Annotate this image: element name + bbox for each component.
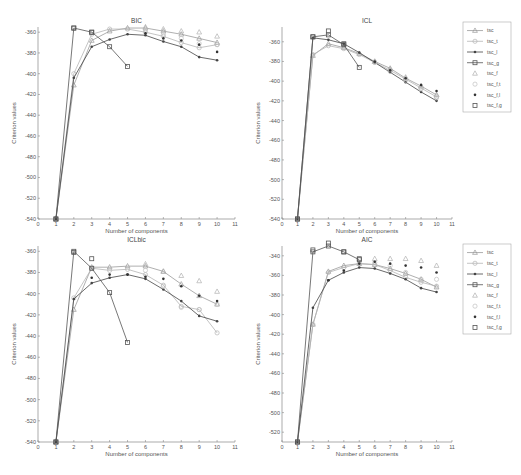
dot-marker (162, 278, 165, 281)
y-tick-label: -480 (269, 390, 280, 396)
y-tick-label: -520 (269, 196, 280, 202)
series-tsc-t (295, 262, 438, 445)
dot-marker (108, 273, 111, 276)
x-tick-label: 4 (342, 221, 345, 227)
y-tick-label: -440 (25, 112, 36, 118)
x-tick-label: 2 (311, 221, 314, 227)
x-tick-label: 6 (144, 221, 147, 227)
dot-marker (216, 320, 219, 323)
figure-canvas: 01234567891011-540-520-500-480-460-440-4… (0, 0, 521, 475)
dot-marker (358, 266, 361, 269)
dot-marker (90, 282, 93, 285)
y-tick-label: -420 (25, 91, 36, 97)
y-tick-label: -360 (269, 39, 280, 45)
dot-marker (144, 32, 147, 35)
legend-entry-label: tsc_f,g (487, 102, 502, 108)
x-tick-label: 3 (90, 221, 93, 227)
x-tick-label: 6 (144, 444, 147, 450)
y-tick-label: -440 (269, 351, 280, 357)
y-axis-label: Criterion values (11, 323, 17, 365)
legend-entry-label: tsc_l (487, 271, 497, 277)
x-axis-label: Number of components (105, 228, 167, 234)
legend-entry-label: tsc (487, 27, 494, 33)
x-tick-label: 0 (36, 444, 39, 450)
y-tick-label: -420 (269, 331, 280, 337)
x-tick-label: 3 (327, 444, 330, 450)
y-tick-label: -380 (25, 50, 36, 56)
x-tick-label: 8 (404, 444, 407, 450)
legend-entry-label: tsc_t (487, 260, 498, 266)
y-tick-label: -500 (25, 174, 36, 180)
x-tick-label: 9 (420, 444, 423, 450)
dot-marker (144, 275, 147, 278)
dot-marker (73, 298, 76, 301)
y-axis-label: Criterion values (11, 102, 17, 144)
dot-marker (198, 294, 201, 297)
axes-frame (282, 27, 452, 219)
chart-panel-bic: 01234567891011-540-520-500-480-460-440-4… (11, 17, 238, 234)
legend-entry-label: tsc_f,t (487, 303, 501, 309)
x-tick-label: 10 (433, 444, 439, 450)
x-tick-label: 6 (373, 444, 376, 450)
chart-panel-icl: 01234567891011-540-520-500-480-460-440-4… (255, 17, 455, 234)
x-tick-label: 2 (311, 444, 314, 450)
dot-marker (358, 51, 361, 54)
series-tsc-l (296, 266, 438, 443)
dot-marker (474, 51, 477, 54)
series-tsc (295, 261, 439, 444)
axes-frame (282, 246, 452, 442)
y-tick-label: -520 (25, 418, 36, 424)
legend-entry-label: tsc_g (487, 60, 499, 66)
dot-marker (126, 273, 129, 276)
chart-title: ICL (362, 17, 373, 24)
x-tick-label: 11 (232, 221, 238, 227)
triangle-marker (197, 30, 202, 34)
legend: tsctsc_ttsc_ltsc_gtsc_ftsc_f,ttsc_f,ltsc… (463, 244, 511, 334)
x-tick-label: 2 (72, 221, 75, 227)
dot-marker (327, 39, 330, 42)
dot-marker (90, 276, 93, 279)
y-tick-label: -480 (25, 375, 36, 381)
dot-marker (343, 269, 346, 272)
x-tick-label: 11 (449, 444, 455, 450)
triangle-marker (419, 258, 424, 262)
y-tick-label: -420 (25, 312, 36, 318)
dot-marker (327, 279, 330, 282)
x-tick-label: 8 (180, 444, 183, 450)
dot-marker (126, 33, 129, 36)
legend-entry-label: tsc_f (487, 70, 498, 76)
x-tick-label: 10 (433, 221, 439, 227)
x-tick-label: 0 (280, 444, 283, 450)
dot-marker (180, 285, 183, 288)
dot-marker (373, 267, 376, 270)
legend-entry-label: tsc_t (487, 38, 498, 44)
chart-panel-aic: 01234567891011-520-500-480-460-440-420-4… (255, 236, 455, 457)
triangle-marker (372, 256, 377, 260)
x-tick-label: 8 (180, 221, 183, 227)
chart-title: BIC (131, 17, 142, 24)
dot-marker (216, 300, 219, 303)
dot-marker (198, 43, 201, 46)
x-tick-label: 4 (108, 221, 111, 227)
legend-entry-label: tsc_f (487, 292, 498, 298)
series-tsc-f-t (143, 268, 219, 311)
x-tick-label: 11 (232, 444, 238, 450)
series-tsc-l (55, 273, 219, 443)
axes-frame (38, 246, 235, 442)
x-tick-label: 4 (342, 444, 345, 450)
dot-marker (216, 59, 219, 62)
dot-marker (420, 266, 423, 269)
dot-marker (474, 273, 477, 276)
dot-marker (389, 69, 392, 72)
y-tick-label: -420 (269, 98, 280, 104)
circle-marker (434, 277, 438, 281)
dot-marker (373, 60, 376, 63)
dot-marker (389, 272, 392, 275)
square-marker (326, 241, 330, 245)
y-tick-label: -360 (25, 248, 36, 254)
y-tick-label: -360 (269, 272, 280, 278)
x-tick-label: 5 (126, 444, 129, 450)
y-tick-label: -460 (25, 354, 36, 360)
y-axis-label: Criterion values (255, 102, 261, 144)
legend-entry-label: tsc (487, 249, 494, 255)
